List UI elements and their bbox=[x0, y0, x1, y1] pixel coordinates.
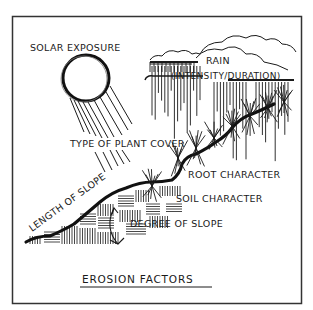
label-rain-intensity: (INTENSITY/DURATION) bbox=[171, 71, 281, 81]
label-plant-cover: TYPE OF PLANT COVER bbox=[69, 138, 185, 149]
erosion-diagram: SOLAR EXPOSURE RAIN (INTENSITY/DURATION)… bbox=[0, 0, 313, 310]
diagram-title: EROSION FACTORS bbox=[82, 273, 193, 285]
label-solar-exposure: SOLAR EXPOSURE bbox=[30, 42, 121, 53]
label-rain: RAIN bbox=[206, 55, 230, 66]
diagram-frame bbox=[13, 17, 302, 304]
plant-blade bbox=[151, 169, 152, 186]
label-soil-character: SOIL CHARACTER bbox=[176, 193, 263, 204]
label-degree-of-slope: DEGREE OF SLOPE bbox=[130, 218, 223, 229]
label-root-character: ROOT CHARACTER bbox=[188, 169, 281, 180]
